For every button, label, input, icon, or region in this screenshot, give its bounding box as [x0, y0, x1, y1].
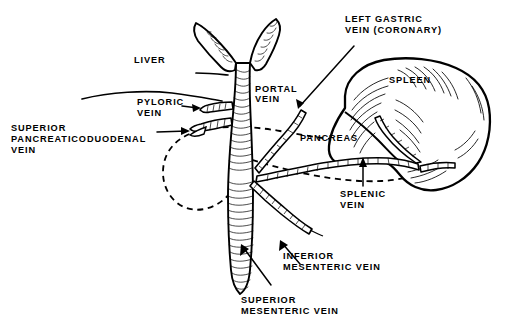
label-portal-vein-line1: PORTAL	[255, 84, 298, 95]
label-inferior-mesenteric-line1: INFERIOR	[283, 251, 334, 262]
pyloric-vein	[200, 102, 233, 112]
label-left-gastric-line2: VEIN (CORONARY)	[345, 25, 442, 36]
label-superior-pancreaticoduodenal-line3: VEIN	[11, 145, 36, 156]
anatomy-diagram: LIVER PYLORIC VEIN SUPERIOR PANCREATICOD…	[0, 0, 508, 323]
label-portal-vein-line2: VEIN	[255, 94, 280, 105]
superior-pancreaticoduodenal-vein	[190, 118, 232, 136]
label-pancreas: PANCREAS	[300, 133, 358, 144]
label-superior-mesenteric-line2: MESENTERIC VEIN	[241, 306, 339, 317]
label-superior-mesenteric-line1: SUPERIOR	[241, 295, 296, 306]
label-superior-pancreaticoduodenal-line2: PANCREATICODUODENAL	[11, 134, 146, 145]
label-pyloric-vein-line2: VEIN	[137, 108, 162, 119]
label-liver: LIVER	[134, 55, 166, 66]
label-splenic-vein-line1: SPLENIC	[340, 189, 386, 200]
label-left-gastric-line1: LEFT GASTRIC	[345, 14, 423, 25]
diagram-artwork	[0, 0, 508, 323]
inferior-mesenteric-vein	[250, 181, 323, 236]
label-inferior-mesenteric-line2: MESENTERIC VEIN	[283, 262, 381, 273]
label-pyloric-vein-line1: PYLORIC	[137, 97, 184, 108]
label-superior-pancreaticoduodenal-line1: SUPERIOR	[11, 123, 66, 134]
label-spleen: SPLEEN	[389, 75, 431, 86]
left-gastric-vein	[255, 110, 306, 173]
label-splenic-vein-line2: VEIN	[340, 200, 365, 211]
